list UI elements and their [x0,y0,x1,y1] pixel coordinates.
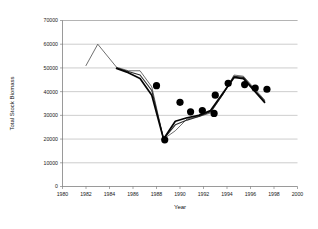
data-point-marker [187,108,194,115]
y-tick-label: 30000 [44,112,59,118]
x-tick-label: 1994 [221,191,233,197]
data-point-marker [161,136,168,143]
biomass-line-chart: 1980198219841986198819901992199419961998… [0,0,318,229]
x-tick-label: 1992 [198,191,210,197]
x-tick-label: 1982 [80,191,92,197]
data-point-marker [199,107,206,114]
x-tick-labels-group: 1980198219841986198819901992199419961998… [57,191,304,197]
x-tick-label: 1988 [151,191,163,197]
y-tick-label: 50000 [44,65,59,71]
x-tick-label: 1984 [104,191,116,197]
data-point-marker [210,110,217,117]
y-tick-label: 60000 [44,41,59,47]
x-axis-title: Year [174,204,186,210]
data-point-marker [252,84,259,91]
data-point-marker [212,92,219,99]
chart-container: 1980198219841986198819901992199419961998… [0,0,318,229]
data-point-marker [241,81,248,88]
y-tick-label: 20000 [44,136,59,142]
x-tick-label: 1998 [268,191,280,197]
data-point-marker [176,99,183,106]
x-tick-label: 2000 [292,191,304,197]
x-tick-label: 1996 [245,191,257,197]
y-tick-labels-group: 010000200003000040000500006000070000 [44,17,59,189]
y-tick-label: 70000 [44,17,59,23]
data-point-marker [263,86,270,93]
gridlines-group [63,21,298,163]
data-point-marker [225,80,232,87]
x-tick-label: 1990 [174,191,186,197]
y-axis-title: Total Stock Biomass [9,76,15,130]
y-tick-label: 40000 [44,89,59,95]
y-tick-label: 0 [55,183,58,189]
x-tick-label: 1986 [127,191,139,197]
y-tick-label: 10000 [44,160,59,166]
data-point-marker [153,82,160,89]
series-line-thick-run [117,68,265,139]
x-tick-label: 1980 [57,191,69,197]
